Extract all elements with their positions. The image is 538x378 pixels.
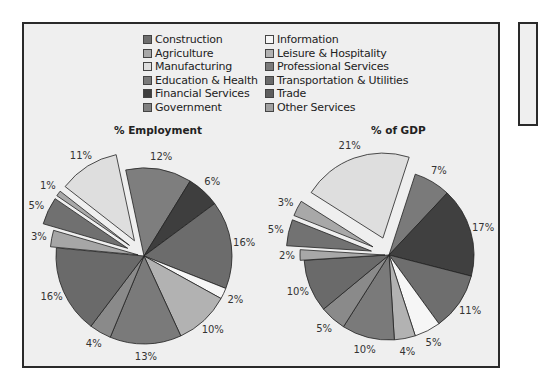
slice-label: 10%	[202, 324, 224, 335]
slice-label: 11%	[70, 150, 92, 161]
slice-label: 16%	[40, 291, 62, 302]
slice-label: 5%	[316, 323, 332, 334]
slice-label: 3%	[278, 197, 294, 208]
slice-label: 16%	[233, 237, 255, 248]
slice-label: 17%	[472, 222, 494, 233]
employment-pie: 12%6%16%2%10%13%4%16%3%5%1%11%	[28, 150, 255, 363]
slice-label: 12%	[150, 151, 172, 162]
slice-label: 6%	[204, 176, 220, 187]
slice-label: 2%	[279, 250, 295, 261]
gdp-pie: 7%17%11%5%4%10%5%10%2%5%3%21%	[268, 140, 494, 356]
slice-label: 7%	[431, 165, 447, 176]
slice-label: 4%	[399, 346, 415, 357]
slice-label: 3%	[31, 231, 47, 242]
slice-label: 11%	[459, 305, 481, 316]
slice-label: 10%	[287, 286, 309, 297]
slice-label: 2%	[227, 294, 243, 305]
slice-label: 1%	[40, 180, 56, 191]
slice-label: 5%	[426, 337, 442, 348]
slice-label: 5%	[268, 224, 284, 235]
slice-label: 10%	[354, 344, 376, 355]
slice-label: 21%	[339, 140, 361, 151]
slice-label: 13%	[135, 351, 157, 362]
slice-label: 5%	[28, 200, 44, 211]
slice-label: 4%	[86, 338, 102, 349]
